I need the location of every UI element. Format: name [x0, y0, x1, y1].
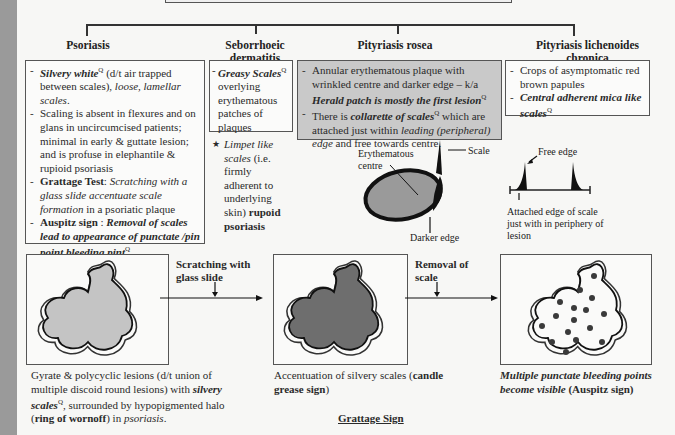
bleeding-point — [573, 337, 579, 343]
text-run: in a psoriatic plaque — [83, 203, 175, 215]
arrow-label-removal: Removal of scale — [415, 258, 485, 284]
pityriasis-rosea-item: -Annular erythematous plaque with wrinkl… — [300, 64, 497, 107]
bleeding-point — [565, 329, 571, 335]
tree-horizontal-line — [86, 24, 446, 26]
tree-branch-seborrhoeic — [255, 24, 257, 34]
seborrhoeic-box: -Greasy ScalesQ overlying erythematous p… — [209, 60, 293, 132]
psoriasis-item: -Scaling is absent in flexures and on gl… — [28, 107, 200, 175]
text-run: Herald patch is mostly the first lesion — [312, 94, 481, 106]
bleeding-point — [583, 307, 589, 313]
text-run: Auspitz sign — [40, 216, 98, 228]
text-run: Greasy Scales — [218, 67, 281, 79]
text-run: ring of wornoff — [35, 412, 107, 424]
arrow-head-icon — [491, 295, 498, 301]
title-psoriasis: Psoriasis — [28, 39, 148, 52]
text-run: There is — [312, 110, 350, 122]
grattage-sign-title: Grattage Sign — [338, 412, 404, 426]
text-run: . — [164, 412, 167, 424]
caption-candle-grease: Accentuation of silvery scales (candle g… — [274, 369, 459, 396]
text-run: . — [67, 94, 70, 106]
text-run: psoriasis — [124, 412, 164, 424]
text-run: overlying erythematous patches of plaque… — [218, 80, 277, 133]
psoriasis-item: -Silvery whiteQ (d/t air trapped between… — [28, 64, 200, 107]
text-run: ) — [325, 383, 329, 395]
tree-horizontal-line-right — [444, 24, 574, 26]
seborrhoeic-item: -Greasy ScalesQ overlying erythematous p… — [212, 64, 290, 135]
bleeding-point — [577, 287, 583, 293]
text-run: Gyrate & polycyclic lesions (d/t union o… — [31, 369, 212, 395]
lesion-auspitz — [520, 256, 640, 364]
bleeding-point — [601, 311, 607, 317]
title-pityriasis-rosea: Pityriasis rosea — [330, 39, 460, 52]
plc-item: -Crops of asymptomatic red brown papules — [508, 64, 645, 91]
arrow-label-scratching: Scratching with glass slide — [176, 258, 256, 284]
scale-flap — [436, 140, 442, 175]
bleeding-point — [549, 339, 555, 345]
label-free-edge: Free edge — [538, 146, 577, 158]
text-run: (Auspitz sign) — [568, 383, 633, 395]
pityriasis-rosea-box: -Annular erythematous plaque with wrinkl… — [297, 60, 502, 140]
herald-patch-lesion — [361, 164, 445, 227]
lesion-psoriasis — [30, 256, 150, 364]
bleeding-point — [571, 305, 577, 311]
bleeding-point — [599, 339, 605, 345]
bleeding-point — [553, 313, 559, 319]
seborrhoeic-note: ★ Limpet like scales (i.e. firmly adhere… — [210, 138, 290, 233]
text-run: Scaling is absent in flexures and on gla… — [40, 107, 196, 173]
caption-psoriasis-lesion: Gyrate & polycyclic lesions (d/t union o… — [31, 369, 246, 426]
psoriasis-box: -Silvery whiteQ (d/t air trapped between… — [25, 60, 205, 244]
text-run: Central adherent mica like scales — [520, 91, 641, 119]
bleeding-point — [587, 325, 593, 331]
text-run: Crops of asymptomatic red brown papules — [520, 64, 639, 90]
text-run: Q — [281, 66, 286, 74]
label-scale: Scale — [468, 145, 490, 157]
text-run: ) in — [106, 412, 124, 424]
bleeding-point — [589, 295, 595, 301]
parent-box-clipped — [165, 0, 512, 3]
bleeding-point — [563, 349, 569, 355]
text-run: Q — [547, 107, 552, 115]
bleeding-point — [557, 299, 563, 305]
text-run: Silvery white — [40, 67, 98, 79]
text-run: Accentuation of silvery scales ( — [274, 369, 413, 381]
label-darker-edge: Darker edge — [410, 232, 459, 244]
arrow-removal — [405, 282, 500, 306]
right-scale — [571, 162, 583, 190]
left-scale — [515, 162, 527, 190]
arrow-scratching — [160, 282, 265, 306]
plc-item: -Central adherent mica like scalesQ — [508, 91, 645, 121]
tree-branch-pityriasis-rosea — [397, 24, 399, 34]
bleeding-point — [571, 317, 577, 323]
label-erythematous-centre: Erythematous centre — [358, 148, 420, 172]
bleeding-point — [591, 273, 597, 279]
plc-box: -Crops of asymptomatic red brown papules… — [505, 60, 650, 116]
text-run: collarette of scales — [350, 110, 434, 122]
page-edge-strip — [0, 0, 17, 435]
text-run: Annular erythematous plaque with wrinkle… — [312, 64, 478, 90]
star-icon: ★ — [212, 138, 220, 152]
lesion-candle-grease — [276, 256, 396, 364]
text-run: Grattage Test — [40, 175, 104, 187]
tree-branch-psoriasis — [86, 24, 88, 36]
text-run: Q — [481, 93, 486, 101]
psoriasis-item: -Grattage Test: Scratching with a glass … — [28, 175, 200, 216]
bleeding-point — [539, 323, 545, 329]
caption-auspitz: Multiple punctate bleeding points become… — [500, 369, 660, 396]
label-attached-edge: Attached edge of scale just with in peri… — [507, 206, 607, 242]
arrow-head-icon — [256, 295, 263, 301]
